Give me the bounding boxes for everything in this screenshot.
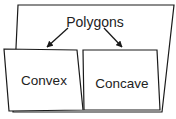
polygons-label: Polygons	[66, 14, 124, 30]
convex-label: Convex	[21, 73, 67, 88]
polygons-diagram: Polygons Convex Concave	[0, 0, 176, 119]
concave-label: Concave	[95, 76, 148, 91]
